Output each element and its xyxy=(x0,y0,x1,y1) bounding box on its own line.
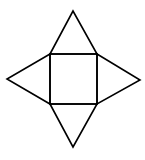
right-triangle xyxy=(97,54,140,104)
base-square xyxy=(50,54,97,104)
top-triangle xyxy=(50,11,97,54)
left-triangle xyxy=(7,54,50,104)
bottom-triangle xyxy=(50,104,97,147)
pyramid-net-diagram xyxy=(0,0,145,160)
